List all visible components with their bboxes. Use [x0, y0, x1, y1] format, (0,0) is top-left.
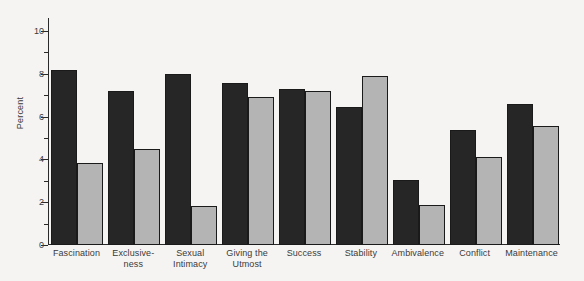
- bar: [476, 157, 502, 245]
- x-axis-label: Giving theUtmost: [219, 248, 276, 270]
- y-tick-mark: [44, 224, 48, 225]
- y-tick-mark: [44, 138, 48, 139]
- y-tick-label: 0: [39, 240, 44, 250]
- bar: [362, 76, 388, 245]
- bar: [305, 91, 331, 245]
- x-axis-label: Maintenance: [503, 248, 560, 259]
- bar: [419, 205, 445, 245]
- bar: [165, 74, 191, 245]
- x-axis-label: Ambivalence: [389, 248, 446, 259]
- bar: [77, 163, 103, 245]
- bars-layer: [49, 18, 560, 245]
- y-tick-label: 2: [39, 197, 44, 207]
- x-axis-label: Success: [276, 248, 333, 259]
- bar: [108, 91, 134, 245]
- x-axis-label: Conflict: [446, 248, 503, 259]
- x-axis-label: SexualIntimacy: [162, 248, 219, 270]
- y-axis-title: Percent: [15, 83, 25, 143]
- bar: [336, 107, 362, 245]
- y-tick-label: 6: [39, 112, 44, 122]
- bar: [134, 149, 160, 245]
- x-axis-label: Exclusive-ness: [105, 248, 162, 270]
- bar: [393, 180, 419, 245]
- y-tick-mark: [44, 181, 48, 182]
- bar: [51, 70, 77, 245]
- y-tick-label: 10: [34, 26, 44, 36]
- x-axis-category-labels: FascinationExclusive-nessSexualIntimacyG…: [48, 248, 560, 280]
- plot-area: 0246810: [48, 18, 560, 245]
- bar: [191, 206, 217, 245]
- y-tick-mark: [44, 52, 48, 53]
- bar: [248, 97, 274, 245]
- bar: [507, 104, 533, 245]
- y-tick-label: 4: [39, 154, 44, 164]
- bar: [279, 89, 305, 245]
- bar: [450, 130, 476, 245]
- bar: [222, 83, 248, 245]
- x-axis-label: Stability: [332, 248, 389, 259]
- y-tick-mark: [44, 95, 48, 96]
- y-tick-label: 8: [39, 69, 44, 79]
- x-axis-label: Fascination: [48, 248, 105, 259]
- bar: [533, 126, 559, 245]
- bar-chart: Percent 0246810 FascinationExclusive-nes…: [0, 0, 584, 281]
